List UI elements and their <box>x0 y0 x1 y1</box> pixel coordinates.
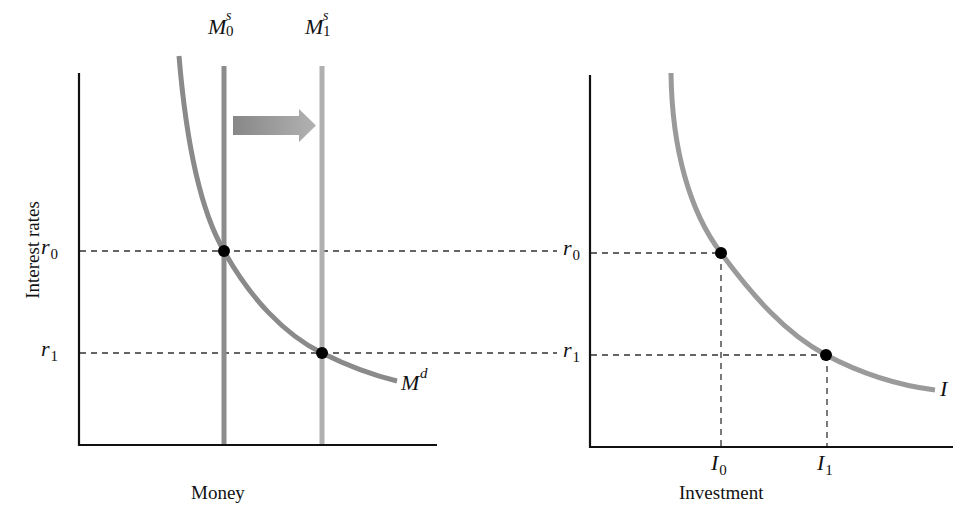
r0-symbol: r <box>41 234 50 259</box>
r0-subscript: 0 <box>51 246 59 262</box>
md-symbol: M <box>401 370 419 395</box>
m0s-superscript: s <box>226 8 231 24</box>
right-r0-tick-label: r0 <box>563 235 580 264</box>
i0-symbol: I <box>711 450 718 475</box>
figure-canvas <box>0 0 975 516</box>
m0s-symbol: M <box>208 14 226 39</box>
shift-right-arrow-icon <box>233 109 316 142</box>
left-r1-tick-label: r1 <box>41 336 58 365</box>
right-r1-tick-label: r1 <box>563 337 580 366</box>
i1-subscript: 1 <box>825 462 833 478</box>
right-panel <box>589 73 953 448</box>
m0s-subscript: 0 <box>226 23 234 40</box>
left-r0-tick-label: r0 <box>41 234 58 263</box>
right-r1-subscript: 1 <box>573 349 581 365</box>
m1s-subscript: 1 <box>323 23 331 40</box>
equilibrium-dot-r1 <box>316 347 328 359</box>
r1-subscript: 1 <box>51 348 59 364</box>
r1-symbol: r <box>41 336 50 361</box>
investment-dot-r0 <box>715 247 727 259</box>
i0-tick-label: I0 <box>711 450 727 479</box>
m1s-superscript: s <box>323 8 328 24</box>
investment-curve-label: I <box>940 376 947 402</box>
m1s-symbol: M <box>305 14 323 39</box>
investment-curve <box>671 73 935 390</box>
right-r0-subscript: 0 <box>573 247 581 263</box>
money-demand-label: M d <box>401 370 419 396</box>
i1-tick-label: I1 <box>817 450 833 479</box>
i0-subscript: 0 <box>719 462 727 478</box>
money-supply-0-label: M s 0 <box>208 14 226 40</box>
right-r0-symbol: r <box>563 235 572 260</box>
right-r1-symbol: r <box>563 337 572 362</box>
investment-dot-r1 <box>820 349 832 361</box>
md-superscript: d <box>420 365 428 382</box>
right-x-axis-label: Investment <box>679 482 763 504</box>
money-demand-curve <box>179 56 397 381</box>
equilibrium-dot-r0 <box>218 245 230 257</box>
money-supply-1-label: M s 1 <box>305 14 323 40</box>
i1-symbol: I <box>817 450 824 475</box>
left-panel <box>78 56 557 446</box>
left-x-axis-label: Money <box>191 482 245 504</box>
